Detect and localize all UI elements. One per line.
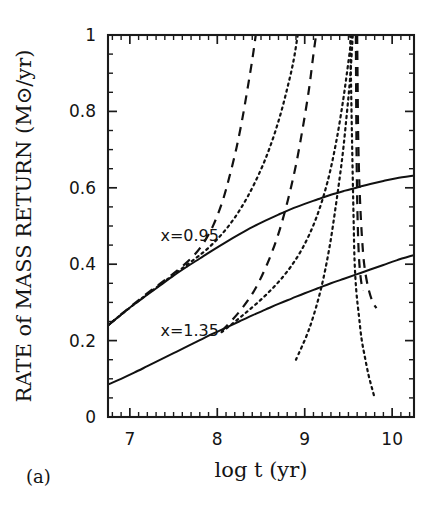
figure-panel: 7891000.20.40.60.81 x=0.95x=1.35 RATE of…	[0, 0, 434, 513]
data-curve	[222, 35, 316, 331]
data-curve	[108, 255, 414, 385]
x-tick-label: 10	[381, 429, 403, 449]
data-curve	[108, 176, 414, 326]
panel-label: (a)	[26, 466, 51, 487]
x-tick-label: 8	[212, 429, 223, 449]
data-curve	[356, 35, 363, 291]
y-tick-label: 0.8	[69, 101, 96, 121]
data-curve	[222, 35, 352, 332]
plot-frame	[108, 35, 414, 417]
label-x-135: x=1.35	[160, 321, 219, 340]
label-x-095: x=0.95	[160, 226, 219, 245]
data-curve	[350, 35, 374, 398]
chart-canvas: 7891000.20.40.60.81 x=0.95x=1.35 RATE of…	[0, 0, 434, 513]
x-tick-label: 9	[299, 429, 310, 449]
y-tick-label: 0	[85, 407, 96, 427]
x-axis-title: log t (yr)	[215, 458, 308, 482]
data-curve	[108, 35, 298, 325]
y-tick-label: 0.2	[69, 331, 96, 351]
y-tick-label: 0.4	[69, 254, 96, 274]
y-tick-label: 1	[85, 25, 96, 45]
x-tick-label: 7	[124, 429, 135, 449]
data-curve	[108, 35, 256, 325]
y-tick-label: 0.6	[69, 178, 96, 198]
y-axis-title: RATE of MASS RETURN (M⊙/yr)	[12, 50, 36, 403]
